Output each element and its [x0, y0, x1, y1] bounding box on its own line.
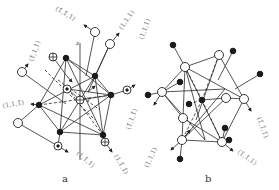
open-atom [215, 51, 224, 60]
filled-atom [145, 92, 151, 98]
panel-a-caption: a [62, 173, 68, 184]
direction-label: (1,1,1) [137, 17, 152, 40]
filled-atom [222, 125, 228, 131]
open-atom [91, 28, 100, 37]
filled-atom [63, 55, 69, 61]
filled-atom [92, 73, 98, 79]
circled-dot-atom [54, 142, 62, 150]
panel-a: z y (1̄,1̄,1) (1,1,1) (1̄,1,1) (1,1,1̄) … [2, 5, 139, 184]
filled-atom [199, 97, 205, 103]
filled-atom [177, 156, 183, 162]
filled-atom [170, 42, 176, 48]
filled-atom [177, 79, 183, 85]
filled-atom [36, 102, 42, 108]
direction-label: (1̄,1,1) [27, 39, 42, 62]
open-atom [158, 88, 167, 97]
direction-label: (1,1,1) [143, 145, 160, 168]
open-atom [18, 68, 27, 77]
axis-z-label: z [75, 39, 80, 46]
open-atom [14, 119, 23, 128]
filled-atom [186, 101, 192, 107]
filled-atom [257, 71, 263, 77]
open-atom [222, 94, 231, 103]
open-atom [179, 114, 188, 123]
circled-plus-atom [76, 96, 84, 104]
direction-label: (1̄,1,1̄) [124, 107, 139, 130]
direction-label: (1̄,1̄,1) [54, 5, 77, 23]
direction-label: (1̄,1̄,1) [236, 148, 259, 167]
open-atom [106, 40, 115, 49]
axis-y-label: y [86, 94, 91, 102]
circled-dot-atom [123, 86, 131, 94]
panel-b: (1,1,1) (1̄,1̄,1̄) (1,1,1) (1̄,1̄,1) b [137, 17, 270, 184]
open-atom [178, 136, 187, 145]
direction-label: (1,1,1) [117, 8, 136, 31]
direction-label: (1,1̄,1) [75, 149, 97, 169]
open-atom [181, 63, 190, 72]
open-atom [218, 138, 227, 147]
panel-a-atoms [14, 28, 132, 151]
direction-label: (1,1̄,1̄) [112, 153, 130, 176]
circled-plus-atom [49, 53, 57, 61]
circled-plus-atom [101, 138, 109, 146]
filled-atom [57, 129, 63, 135]
filled-atom [230, 48, 236, 54]
filled-atom [100, 132, 106, 138]
direction-label: (1,1,1̄) [2, 98, 25, 110]
panel-b-caption: b [205, 173, 211, 184]
open-atom [240, 95, 249, 104]
filled-atom [108, 92, 114, 98]
filled-atom [226, 137, 232, 143]
circled-dot-atom [63, 85, 71, 93]
diagram-canvas: z y (1̄,1̄,1) (1,1,1) (1̄,1,1) (1,1,1̄) … [0, 0, 279, 190]
direction-label: (1̄,1̄,1̄) [255, 116, 270, 139]
